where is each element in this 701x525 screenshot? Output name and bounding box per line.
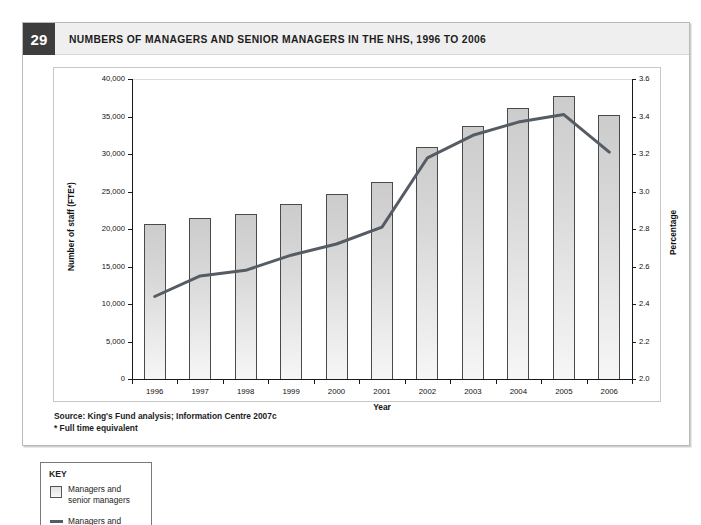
figure-container: 29 NUMBERS OF MANAGERS AND SENIOR MANAGE… <box>22 22 690 446</box>
legend-bar-label-line1: Managers and <box>68 484 121 494</box>
source-line: Source: King's Fund analysis; Informatio… <box>54 411 277 421</box>
y-axis-title-right: Percentage <box>668 210 678 255</box>
plot-frame: 05,00010,00015,00020,00025,00030,00035,0… <box>53 67 661 402</box>
legend-heading: KEY <box>49 469 67 479</box>
figure-page: 29 NUMBERS OF MANAGERS AND SENIOR MANAGE… <box>0 0 701 525</box>
legend-line-label: Managers and <box>68 516 121 525</box>
chart-plot-area: 05,00010,00015,00020,00025,00030,00035,0… <box>54 68 660 401</box>
legend-bar-swatch-icon <box>50 486 62 498</box>
figure-title: NUMBERS OF MANAGERS AND SENIOR MANAGERS … <box>69 23 486 55</box>
legend-line-swatch-icon <box>50 520 63 523</box>
figure-number-badge: 29 <box>23 23 55 55</box>
legend-bar-label: Managers and senior managers <box>68 484 130 506</box>
legend-bar-label-line2: senior managers <box>68 495 130 505</box>
footnote-line: * Full time equivalent <box>54 423 138 433</box>
percentage-line-series <box>54 68 662 403</box>
x-axis-title: Year <box>362 402 402 412</box>
legend-key-box: KEY Managers and senior managers Manager… <box>40 462 152 525</box>
percentage-line-path <box>155 115 610 297</box>
figure-header: 29 NUMBERS OF MANAGERS AND SENIOR MANAGE… <box>23 23 689 55</box>
